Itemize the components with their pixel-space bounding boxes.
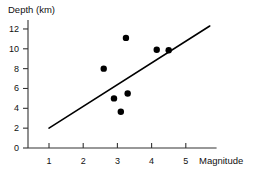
y-tick-label-0: 0 xyxy=(5,143,19,153)
x-tick-label-5: 5 xyxy=(179,156,193,166)
y-tick-label-2: 2 xyxy=(5,123,19,133)
data-point xyxy=(154,47,160,53)
trend-line xyxy=(49,26,210,128)
x-tick-label-2: 2 xyxy=(76,156,90,166)
data-point xyxy=(124,90,130,96)
data-point xyxy=(118,109,124,115)
data-points xyxy=(101,35,172,115)
y-tick-label-10: 10 xyxy=(5,44,19,54)
x-tick-label-1: 1 xyxy=(42,156,56,166)
axis-ticks xyxy=(23,29,186,148)
data-point xyxy=(123,35,129,41)
scatter-plot-figure: Depth (km) Magnitude 02468101212345 xyxy=(0,0,253,174)
data-point xyxy=(101,65,107,71)
x-tick-label-4: 4 xyxy=(145,156,159,166)
data-point xyxy=(166,47,172,53)
y-tick-label-8: 8 xyxy=(5,64,19,74)
trend-line-segment xyxy=(49,26,210,128)
y-tick-label-12: 12 xyxy=(5,24,19,34)
x-tick-label-3: 3 xyxy=(110,156,124,166)
y-tick-label-4: 4 xyxy=(5,103,19,113)
y-tick-label-6: 6 xyxy=(5,83,19,93)
data-point xyxy=(111,95,117,101)
plot-area xyxy=(0,0,253,174)
